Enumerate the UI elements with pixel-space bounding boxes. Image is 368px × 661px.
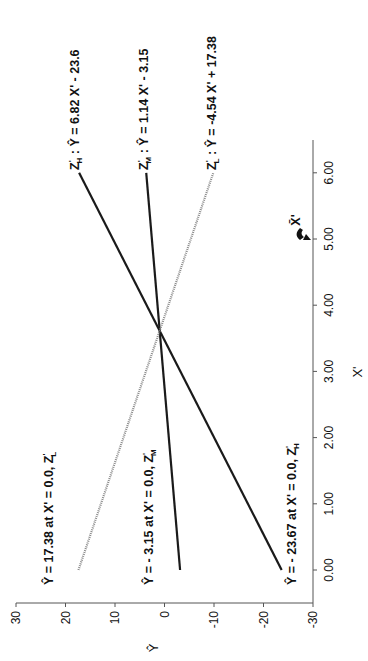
x-tick-label: 5.00 <box>322 227 336 251</box>
regression-chart: 0.001.002.003.004.005.006.00 X' 3020100-… <box>0 0 368 661</box>
y-tick-label: 20 <box>59 611 73 625</box>
equation-label-m: Z'M : Ŷ = 1.14 X' - 3.15 <box>136 48 153 170</box>
intercept-label-l: Ŷ = 17.38 at X' = 0.0, Z'L <box>41 452 58 585</box>
y-axis-title: Ŷ <box>146 643 161 652</box>
y-axis-ticks: 3020100-10-20-30 <box>9 603 320 628</box>
equation-label-l: Z'L : Ŷ = -4.54 X' + 17.38 <box>204 36 221 170</box>
y-tick-label: -20 <box>257 611 271 629</box>
equation-label-h: Z'H : Ŷ = 6.82 X' - 23.6 <box>67 49 84 170</box>
mean-marker: X̄' <box>289 214 311 240</box>
y-tick-label: -10 <box>207 611 221 629</box>
y-tick-label: 30 <box>9 611 23 625</box>
mean-label: X̄' <box>289 214 303 225</box>
x-tick-label: 0.00 <box>322 558 336 582</box>
series-line-zh <box>79 173 282 570</box>
intercept-label-m: Ŷ = - 3.15 at X' = 0.0, Z'M <box>141 449 158 585</box>
x-tick-label: 3.00 <box>322 359 336 383</box>
x-tick-label: 4.00 <box>322 293 336 317</box>
x-tick-label: 2.00 <box>322 426 336 450</box>
x-tick-label: 6.00 <box>322 161 336 185</box>
y-tick-label: 0 <box>158 611 172 618</box>
intercept-label-h: Ŷ = - 23.67 at X' = 0.0, Z'H <box>284 443 301 585</box>
x-tick-label: 1.00 <box>322 492 336 516</box>
x-axis-ticks: 0.001.002.003.004.005.006.00 <box>313 161 336 582</box>
x-axis-title: X' <box>350 366 365 377</box>
y-tick-label: 10 <box>108 611 122 625</box>
series-lines <box>78 173 281 570</box>
y-tick-label: -30 <box>306 611 320 629</box>
x-axis: 0.001.002.003.004.005.006.00 X' <box>313 140 365 603</box>
arrow-icon <box>297 228 304 240</box>
y-axis: 3020100-10-20-30 Ŷ <box>9 603 320 652</box>
